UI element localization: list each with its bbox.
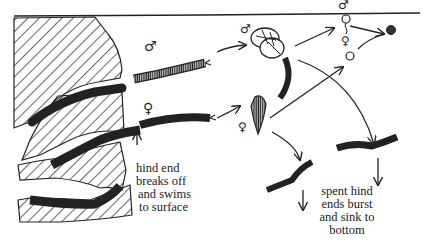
female-symbol-3: ♀ bbox=[341, 34, 350, 48]
female-symbol: ♀ bbox=[143, 101, 153, 115]
male-symbol-3: ♂ bbox=[338, 0, 349, 12]
label-spent-hind-ends: spent hind ends burst and sink to bottom bbox=[317, 185, 377, 237]
diagram-canvas: ♂ ♀ ♂ ♀ ♂ ♀ hind end breaks off and swim… bbox=[0, 0, 422, 245]
female-symbol-2: ♀ bbox=[238, 120, 247, 134]
label-line: to surface bbox=[136, 201, 191, 214]
female-body bbox=[251, 96, 266, 134]
label-line: bottom bbox=[317, 224, 377, 237]
label-hind-end-breaks: hind end breaks off and swims to surface bbox=[136, 162, 191, 214]
water-surface-line bbox=[14, 13, 420, 16]
male-symbol: ♂ bbox=[144, 39, 157, 53]
female-hind-end bbox=[140, 115, 216, 125]
coiled-male bbox=[251, 28, 289, 98]
gametes bbox=[342, 15, 396, 60]
male-symbol-2: ♂ bbox=[240, 22, 251, 36]
male-hind-end bbox=[134, 60, 211, 79]
